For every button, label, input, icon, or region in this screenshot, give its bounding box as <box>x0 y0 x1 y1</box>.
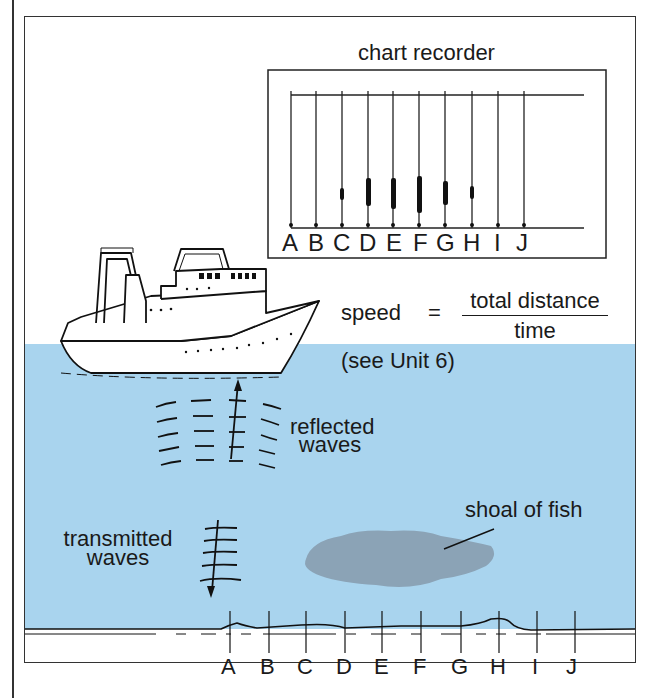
seabed-label-e: E <box>374 656 389 678</box>
formula-equals: = <box>428 302 441 324</box>
seabed-label-i: I <box>532 656 538 678</box>
recorder-label-j: J <box>516 231 528 255</box>
ship <box>61 248 319 378</box>
recorder-label-b: B <box>308 231 324 255</box>
seabed-label-h: H <box>490 656 506 678</box>
recorder-label-e: E <box>386 231 402 255</box>
seabed-label-c: C <box>297 656 313 678</box>
recorder-label-i: I <box>494 231 501 255</box>
chart-recorder-title: chart recorder <box>358 42 495 64</box>
formula-numerator: total distance <box>462 290 608 316</box>
recorder-label-a: A <box>282 231 298 255</box>
transmitted-waves-label-2: waves <box>56 547 180 569</box>
seabed-label-f: F <box>413 656 426 678</box>
unit-reference: (see Unit 6) <box>341 350 455 372</box>
shoal-label: shoal of fish <box>465 499 582 521</box>
recorder-label-d: D <box>359 231 376 255</box>
recorder-label-h: H <box>463 231 480 255</box>
outer-border-line <box>12 0 14 698</box>
seabed-label-d: D <box>336 656 352 678</box>
recorder-label-f: F <box>413 231 428 255</box>
seabed-label-g: G <box>451 656 468 678</box>
recorder-label-c: C <box>333 231 350 255</box>
formula-lhs: speed <box>341 302 401 324</box>
seabed-label-a: A <box>221 656 236 678</box>
seabed-label-j: J <box>566 656 577 678</box>
reflected-waves-label-2: waves <box>290 434 370 456</box>
recorder-label-g: G <box>436 231 455 255</box>
sea-water <box>25 344 636 629</box>
seabed-label-b: B <box>260 656 275 678</box>
formula-denominator: time <box>462 320 608 342</box>
